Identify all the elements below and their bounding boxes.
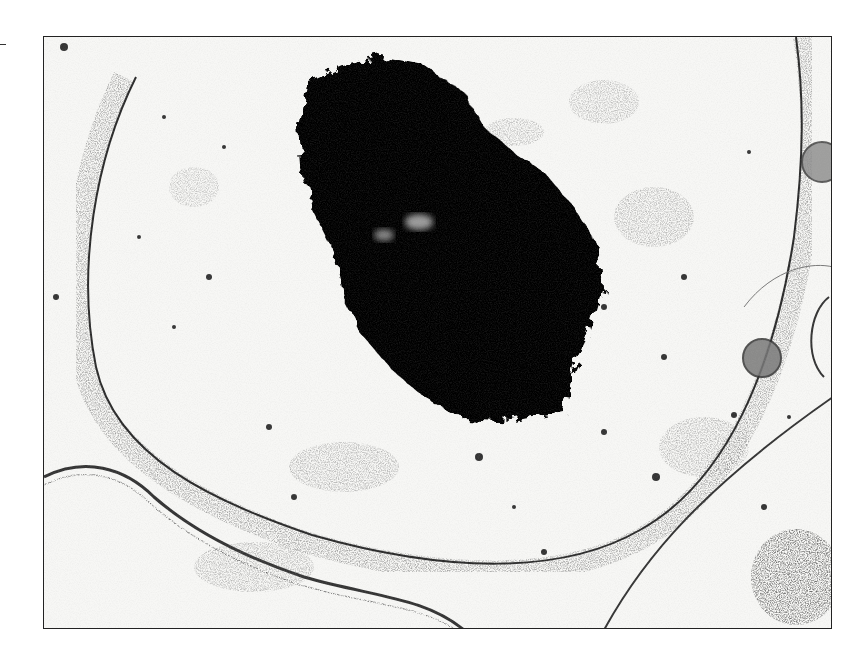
margin-tick-mark [0,44,6,45]
micrograph-frame [43,36,832,629]
micrograph-image [44,37,832,629]
